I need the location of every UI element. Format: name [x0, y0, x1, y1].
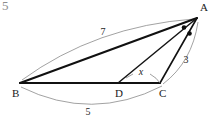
- segment-ac: [160, 18, 197, 83]
- arc-measure-bc: [21, 86, 162, 104]
- vertex-label-a: A: [200, 1, 208, 13]
- angle-dot-dac: [187, 31, 192, 36]
- vertex-label-b: B: [12, 87, 19, 99]
- measure-label-ad: x: [138, 66, 144, 77]
- angle-dot-bad: [182, 25, 187, 30]
- vertex-label-d: D: [115, 87, 123, 99]
- geometry-figure: A B C D 7 3 5 x: [0, 0, 216, 124]
- vertex-label-c: C: [159, 87, 166, 99]
- measure-label-ab: 7: [101, 26, 106, 37]
- measure-label-ac: 3: [184, 54, 189, 65]
- leader-x-right: [150, 74, 160, 83]
- diagram-canvas: 5 A B C D 7 3 5 x: [0, 0, 216, 124]
- segment-ab: [20, 18, 197, 83]
- measure-label-bc: 5: [86, 106, 91, 117]
